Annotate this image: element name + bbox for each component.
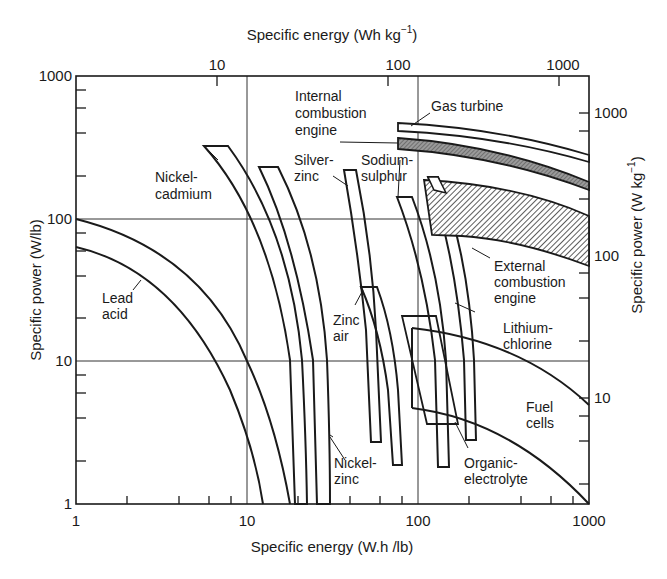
nickel-zinc-band xyxy=(259,167,330,504)
x-axis-title: Specific energy (W.h /lb) xyxy=(251,538,414,555)
y-axis-title: Specific power (W/lb) xyxy=(27,219,44,361)
label-sodium-sulphur-1: Sodium- xyxy=(361,152,413,168)
svg-text:100: 100 xyxy=(47,210,72,227)
svg-text:10: 10 xyxy=(239,512,256,529)
organic-electrolyte-box xyxy=(402,316,458,424)
silver-zinc-band xyxy=(344,170,381,442)
label-internal-combustion-1: Internal xyxy=(295,88,342,104)
label-external-combustion-3: engine xyxy=(494,290,536,306)
svg-text:100: 100 xyxy=(594,247,619,264)
label-external-combustion-2: combustion xyxy=(494,274,566,290)
label-nickel-cadmium-2: cadmium xyxy=(155,186,212,202)
label-internal-combustion-2: combustion xyxy=(295,105,367,121)
nickel-cadmium-band xyxy=(204,146,307,504)
label-lead-acid-1: Lead xyxy=(102,290,133,306)
right-axis-ticks xyxy=(579,113,589,484)
label-lithium-chlorine-2: chlorine xyxy=(503,336,552,352)
ragone-chart: 1 10 100 1000 1 10 100 1000 10 100 1000 … xyxy=(0,0,667,579)
left-axis-ticks xyxy=(76,90,86,461)
label-organic-electrolyte-1: Organic- xyxy=(464,455,518,471)
svg-text:10: 10 xyxy=(55,352,72,369)
label-lead-acid-2: acid xyxy=(102,306,128,322)
label-zinc-air-2: air xyxy=(333,328,349,344)
label-nickel-zinc-1: Nickel- xyxy=(334,455,377,471)
fuel-cells-upper xyxy=(412,328,589,405)
label-nickel-cadmium-1: Nickel- xyxy=(155,169,198,185)
y2-axis-title: Specific power (W kg−1) xyxy=(626,156,645,313)
label-sodium-sulphur-2: sulphur xyxy=(361,168,407,184)
svg-text:10: 10 xyxy=(209,56,226,73)
lead-acid-curve-lower xyxy=(76,247,263,504)
series-labels: Gas turbine Internal combustion engine N… xyxy=(102,88,566,487)
x2-axis-title: Specific energy (Wh kg−1) xyxy=(247,24,418,43)
label-fuel-cells-1: Fuel xyxy=(526,399,553,415)
svg-text:1000: 1000 xyxy=(39,67,72,84)
label-silver-zinc-1: Silver- xyxy=(294,152,334,168)
y2-tick-labels: 1000 100 10 xyxy=(594,104,627,406)
x-tick-labels: 1 10 100 1000 xyxy=(72,512,606,529)
bottom-axis-ticks xyxy=(127,496,573,504)
svg-text:100: 100 xyxy=(385,56,410,73)
svg-text:1: 1 xyxy=(72,512,80,529)
label-internal-combustion-3: engine xyxy=(295,122,337,138)
svg-text:10: 10 xyxy=(594,389,611,406)
label-gas-turbine: Gas turbine xyxy=(431,98,504,114)
label-silver-zinc-2: zinc xyxy=(294,168,319,184)
label-lithium-chlorine-1: Lithium- xyxy=(503,320,553,336)
label-organic-electrolyte-2: electrolyte xyxy=(464,471,528,487)
label-nickel-zinc-2: zinc xyxy=(334,471,359,487)
top-axis-ticks xyxy=(217,76,559,86)
x2-tick-labels: 10 100 1000 xyxy=(209,56,580,73)
label-fuel-cells-2: cells xyxy=(526,415,554,431)
label-zinc-air-1: Zinc xyxy=(333,312,359,328)
label-external-combustion-1: External xyxy=(494,258,545,274)
svg-text:100: 100 xyxy=(405,512,430,529)
svg-text:1000: 1000 xyxy=(594,104,627,121)
svg-text:1000: 1000 xyxy=(546,56,579,73)
svg-text:1: 1 xyxy=(64,495,72,512)
svg-text:1000: 1000 xyxy=(572,512,605,529)
